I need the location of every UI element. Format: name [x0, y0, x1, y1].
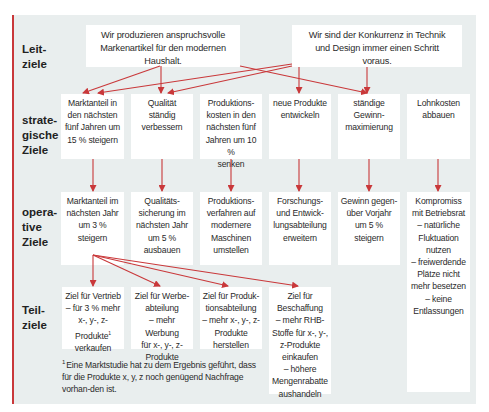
sub-goal-box-1: Ziel für Vertrieb – für 3 % mehr x-, y-,… — [62, 287, 124, 349]
strategic-goal-box-2: Qualität ständig verbessern — [131, 94, 193, 159]
operative-goal-box-6: Kompromiss mit Betriebsrat – natürliche … — [407, 192, 470, 392]
strategic-goal-box-1: Marktanteil in den nächsten fünf Jahren … — [61, 94, 124, 159]
operative-goal-box-1: Marktanteil im nächsten Jahr um 3 % stei… — [61, 192, 124, 265]
footnote-marker: 1 — [62, 359, 65, 365]
row-label-strategische-ziele: strate- gische Ziele — [22, 113, 58, 158]
sub-goal-box-2: Ziel für Werbe- abteilung – mehr Werbung… — [131, 287, 193, 349]
strategic-goal-box-5: ständige Gewinn- maximierung — [338, 94, 400, 159]
operative-goal-box-5: Gewinn gegen- über Vorjahr um 5 % steige… — [338, 192, 400, 265]
sub-goal-box-3: Ziel für Produk- tionsabteilung – mehr x… — [200, 287, 262, 349]
operative-goal-box-3: Produktions- verfahren auf modernere Mas… — [200, 192, 262, 265]
footnote-marker: 1 — [108, 330, 111, 336]
sub-goal-box-4: Ziel für Beschaffung – mehr RHB- Stoffe … — [269, 287, 331, 394]
strategic-goal-box-4: neue Produkte entwickeln — [269, 94, 331, 159]
sub-goal-1-text-end: verkaufen — [75, 343, 111, 353]
footnote: 1Eine Marktstudie hat zu dem Ergebnis ge… — [62, 356, 262, 396]
operative-goal-box-4: Forschungs- und Entwick- lungsabteilung … — [269, 192, 331, 265]
row-label-operative-ziele: opera- tive Ziele — [22, 205, 57, 250]
footnote-text: Eine Marktstudie hat zu dem Ergebnis gef… — [62, 360, 256, 394]
row-label-teilziele: Teil- ziele — [22, 303, 47, 333]
strategic-goal-box-3: Produktions- kosten in den nächsten fünf… — [200, 94, 262, 159]
strategic-goal-box-6: Lohnkosten abbauen — [407, 94, 470, 159]
row-label-leitziele: Leit- ziele — [22, 42, 47, 72]
leitziel-box-1: Wir produzieren anspruchsvolle Markenart… — [86, 25, 240, 67]
operative-goal-box-2: Qualitäts- sicherung im nächsten Jahr um… — [131, 192, 193, 265]
sub-goal-1-text: Ziel für Vertrieb – für 3 % mehr x-, y-,… — [65, 291, 121, 340]
leitziel-box-2: Wir sind der Konkurrenz in Technik und D… — [292, 25, 462, 67]
